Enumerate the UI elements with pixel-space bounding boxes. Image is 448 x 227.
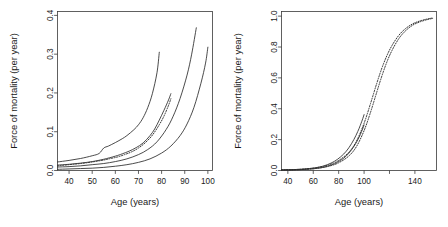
x-axis-title-left: Age (years) <box>111 196 159 207</box>
y-tick-label-left-4: 0.4 <box>46 9 55 21</box>
x-tick-label-right-140: 140 <box>408 177 422 186</box>
x-axis-title-right: Age (years) <box>335 196 383 207</box>
y-tick-label-right-0: 0.0 <box>270 164 279 176</box>
y-tick-label-right-4: 0.8 <box>270 41 279 53</box>
y-tick-label-left-2: 0.2 <box>46 87 55 99</box>
curve-curve-a-solid <box>282 115 365 170</box>
plot-frame-right <box>282 12 437 171</box>
y-tick-label-right-3: 0.6 <box>270 72 279 84</box>
y-tick-label-right-5: 1.0 <box>270 10 279 22</box>
right-panel: 4060801001400.00.20.40.60.81.0Age (years… <box>224 0 448 227</box>
curve-curve-2-dotted-overlay <box>58 99 171 166</box>
curve-curve-b-dotted <box>282 18 433 170</box>
y-tick-label-right-2: 0.4 <box>270 103 279 115</box>
y-tick-label-right-1: 0.2 <box>270 133 279 145</box>
x-tick-label-left-70: 70 <box>134 177 144 186</box>
curve-curve-a-dotted <box>282 18 433 170</box>
x-tick-label-left-80: 80 <box>157 177 167 186</box>
left-panel-plot: 4050607080901000.00.10.20.30.4Age (years… <box>0 0 224 227</box>
x-tick-label-left-50: 50 <box>88 177 98 186</box>
x-tick-label-right-60: 60 <box>309 177 319 186</box>
x-tick-label-left-100: 100 <box>201 177 215 186</box>
x-tick-label-left-40: 40 <box>65 177 75 186</box>
y-tick-label-left-1: 0.1 <box>46 126 55 138</box>
y-tick-label-left-0: 0.0 <box>46 164 55 176</box>
mortality-figure: 4050607080901000.00.10.20.30.4Age (years… <box>0 0 448 227</box>
plot-frame-left <box>58 12 213 171</box>
x-tick-label-right-40: 40 <box>283 177 293 186</box>
x-tick-label-left-60: 60 <box>111 177 121 186</box>
x-tick-label-right-80: 80 <box>334 177 344 186</box>
curve-curve-3-solid <box>58 28 197 167</box>
right-panel-plot: 4060801001400.00.20.40.60.81.0Age (years… <box>224 0 448 227</box>
curve-curve-2-solid <box>58 94 171 165</box>
curve-curve-b-solid <box>282 125 365 170</box>
curve-curve-4-lower-solid <box>58 47 208 169</box>
x-tick-label-right-100: 100 <box>357 177 371 186</box>
y-axis-title-left: Force of mortality (per year) <box>8 33 19 149</box>
y-axis-title-right: Force of mortality (per year) <box>232 33 243 149</box>
x-tick-label-left-90: 90 <box>180 177 190 186</box>
left-panel: 4050607080901000.00.10.20.30.4Age (years… <box>0 0 224 227</box>
y-tick-label-left-3: 0.3 <box>46 48 55 60</box>
curve-curve-1-upper-solid <box>58 52 160 162</box>
